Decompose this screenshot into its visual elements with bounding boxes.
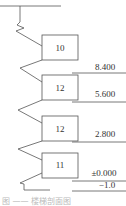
base-elevation: −1.0 — [99, 180, 116, 190]
floor-box-1-label: 10 — [56, 43, 66, 53]
elevation-2: 5.600 — [95, 89, 116, 99]
stair-flight-2 — [18, 100, 42, 123]
stair-zigzag-top — [16, 6, 42, 46]
floor-box-2-label: 12 — [56, 83, 65, 93]
figure-caption: 图 —— 楼梯剖面图 — [2, 196, 71, 206]
stair-flight-1 — [20, 60, 42, 82]
floor-box-4-label: 11 — [56, 160, 65, 170]
section-diagram: 10 8.400 12 5.600 12 2.800 11 ±0.000 −1.… — [0, 0, 126, 206]
elevation-4: ±0.000 — [91, 168, 117, 178]
floor-box-3-label: 12 — [56, 124, 65, 134]
stair-flight-3 — [18, 141, 42, 160]
elevation-3: 2.800 — [95, 129, 116, 139]
elevation-1: 8.400 — [95, 62, 116, 72]
